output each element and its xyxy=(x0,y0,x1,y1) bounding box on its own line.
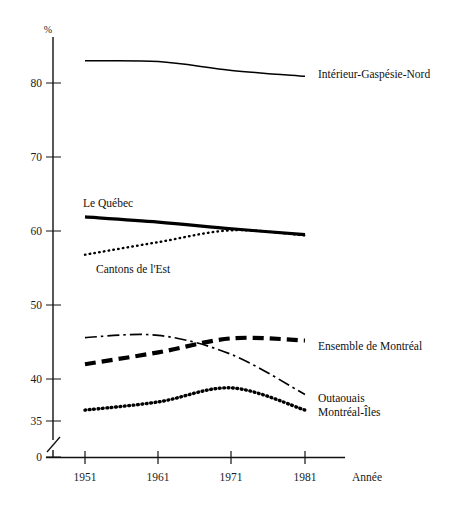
y-tick-label-0: 0 xyxy=(36,451,42,463)
x-tick-label-1961: 1961 xyxy=(147,471,170,483)
y-tick-label-60: 60 xyxy=(31,225,43,237)
chart-figure: 80 70 60 50 40 35 0 % 1951 1961 1971 198… xyxy=(0,0,453,506)
x-tick-label-1981: 1981 xyxy=(294,471,317,483)
y-tick-label-80: 80 xyxy=(31,77,43,89)
y-tick-label-35: 35 xyxy=(31,415,43,427)
series-line-ensemble-de-montr-al xyxy=(85,338,305,364)
y-axis xyxy=(47,37,60,458)
series-line-montr-al-les xyxy=(85,388,305,410)
y-axis-unit-label: % xyxy=(44,24,52,35)
series-line-int-rieur-gasp-sie-nord xyxy=(85,61,305,77)
x-tick-label-1951: 1951 xyxy=(74,471,97,483)
series-line-cantons-de-l-est xyxy=(85,230,305,255)
y-tick-label-40: 40 xyxy=(31,373,43,385)
x-axis-title: Année xyxy=(352,471,382,483)
line-chart-canvas: 80 70 60 50 40 35 0 % 1951 1961 1971 198… xyxy=(0,0,453,506)
y-tick-label-70: 70 xyxy=(31,151,43,163)
series-layer xyxy=(85,61,305,410)
y-tick-label-50: 50 xyxy=(31,299,43,311)
series-label-montreal-iles: Montréal-Îles xyxy=(318,405,381,418)
series-label-cantons-de-l-est: Cantons de l'Est xyxy=(96,263,171,275)
series-label-ensemble-de-montreal: Ensemble de Montréal xyxy=(318,340,422,352)
x-tick-label-1971: 1971 xyxy=(220,471,243,483)
series-label-interieur-gaspesie-nord: Intérieur-Gaspésie-Nord xyxy=(318,68,430,81)
series-line-le-qu-bec xyxy=(85,217,305,235)
series-label-outaouais: Outaouais xyxy=(318,392,365,404)
series-label-le-quebec: Le Québec xyxy=(83,197,133,209)
